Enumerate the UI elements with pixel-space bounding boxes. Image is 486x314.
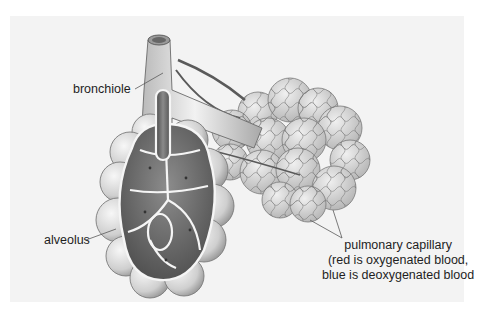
label-pulmonary-capillary: pulmonary capillary (red is oxygenated b… [322, 238, 474, 283]
capillary-cluster [212, 78, 370, 222]
label-bronchiole: bronchiole [73, 82, 131, 97]
label-capillary-line3: blue is deoxygenated blood [322, 268, 474, 283]
label-alveolus: alveolus [44, 233, 90, 248]
label-capillary-line1: pulmonary capillary [322, 238, 474, 253]
label-capillary-line2: (red is oxygenated blood, [322, 253, 474, 268]
